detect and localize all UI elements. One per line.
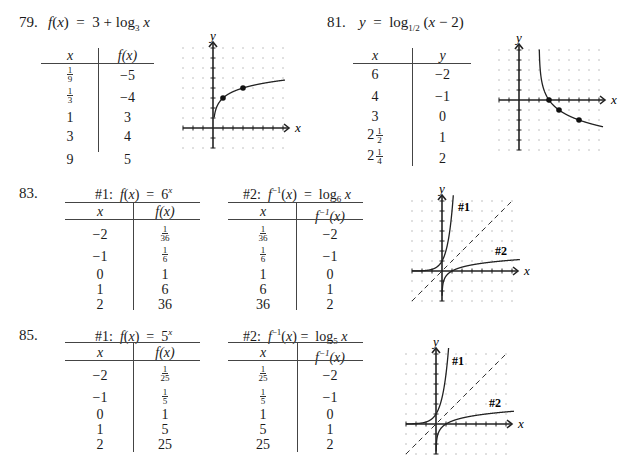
graph-79: yx — [180, 34, 300, 154]
svg-text:x: x — [517, 416, 524, 431]
svg-text:#2: #2 — [489, 396, 501, 410]
svg-text:x: x — [610, 92, 617, 107]
svg-text:y: y — [431, 334, 439, 349]
svg-text:#1: #1 — [458, 200, 470, 214]
equation: f(x) = 3 + log3 x — [48, 14, 150, 33]
graph-85: yx#1#2 — [400, 330, 560, 465]
svg-text:y: y — [208, 28, 216, 43]
col-header-x: x — [50, 48, 90, 64]
problem-number: 79. — [19, 14, 38, 31]
svg-text:y: y — [514, 30, 522, 45]
svg-text:x: x — [523, 263, 530, 278]
svg-text:#2: #2 — [495, 244, 507, 258]
col-header-fx: f(x) — [105, 48, 150, 64]
equation: y = log1/2 (x − 2) — [359, 14, 464, 33]
svg-text:y: y — [437, 181, 445, 196]
svg-text:#1: #1 — [452, 354, 464, 368]
problem-number: 81. — [327, 14, 346, 31]
svg-text:x: x — [294, 120, 301, 135]
problem-number: 85. — [19, 327, 38, 344]
graph-83: yx#1#2 — [400, 190, 560, 315]
graph-81: yx — [490, 34, 633, 164]
problem-number: 83. — [19, 185, 38, 202]
